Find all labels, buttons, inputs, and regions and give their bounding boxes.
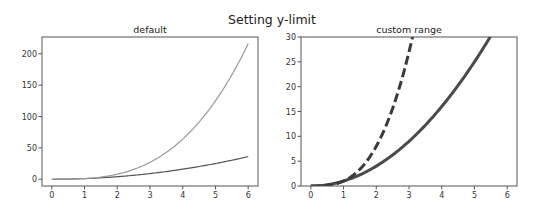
y-tick-label: 30 (286, 33, 296, 42)
figure: Setting y-limit default 0123456 05010015… (0, 0, 547, 214)
x-tick-label: 4 (180, 191, 185, 200)
panel-title-custom-range: custom range (376, 24, 442, 35)
x-tick-label: 0 (49, 191, 54, 200)
x-tick-label: 4 (439, 191, 444, 200)
x-tick-label: 1 (82, 191, 87, 200)
x-tick-label: 0 (308, 191, 313, 200)
x-tick-label: 2 (115, 191, 120, 200)
y-tick-label: 15 (286, 108, 296, 117)
axes-frame (301, 37, 517, 186)
y-tick-label: 0 (32, 175, 37, 184)
x-tick-label: 3 (406, 191, 411, 200)
panel-title-default: default (133, 24, 167, 35)
x-tick-label: 2 (374, 191, 379, 200)
axes-frame (42, 37, 258, 186)
y-tick-label: 100 (22, 113, 37, 122)
y-tick-label: 50 (27, 144, 37, 153)
y-tick-label: 150 (22, 81, 37, 90)
y-tick-label: 5 (291, 157, 296, 166)
series-line-xpow3 (52, 44, 248, 179)
figure-title: Setting y-limit (228, 12, 316, 27)
y-tick-label: 20 (286, 83, 296, 92)
x-tick-label: 6 (246, 191, 251, 200)
panel-custom-range: custom range 0123456 051015202530 (286, 0, 517, 200)
y-tick-label: 0 (291, 182, 296, 191)
x-tick-label: 5 (213, 191, 218, 200)
series-line-xpow2 (52, 157, 248, 180)
y-tick-label: 25 (286, 58, 296, 67)
x-tick-label: 5 (472, 191, 477, 200)
x-tick-label: 3 (147, 191, 152, 200)
x-tick-label: 6 (505, 191, 510, 200)
y-tick-label: 200 (22, 50, 37, 59)
x-tick-label: 1 (341, 191, 346, 200)
panel-default: default 0123456 050100150200 (22, 24, 258, 200)
y-tick-label: 10 (286, 132, 296, 141)
